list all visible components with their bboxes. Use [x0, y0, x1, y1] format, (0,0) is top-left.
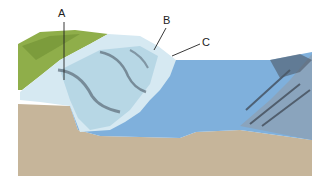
label-b-line: [154, 28, 166, 50]
diagram-illustration: [0, 0, 329, 184]
label-a: A: [58, 8, 65, 19]
label-c: C: [202, 37, 210, 48]
label-c-line: [172, 44, 200, 56]
glacier-diagram: A B C: [0, 0, 329, 184]
label-b: B: [163, 15, 170, 26]
